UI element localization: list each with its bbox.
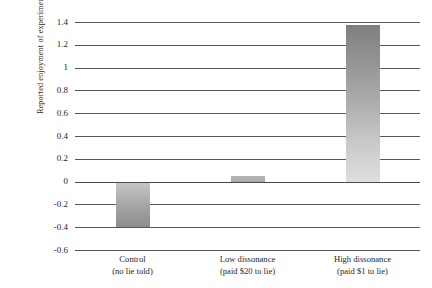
- y-tick-label: 1.2: [57, 38, 68, 51]
- y-tick-label: -0.6: [54, 244, 68, 257]
- y-tick-label: 1.4: [57, 16, 68, 29]
- x-axis-label-line2: (paid $1 to lie): [298, 266, 428, 278]
- x-axis-label-line1: Control: [68, 254, 198, 266]
- y-tick-label: -0.2: [54, 198, 68, 211]
- zero-baseline: [75, 182, 420, 183]
- y-tick-label: 0.2: [57, 152, 68, 165]
- x-axis-label-line2: (paid $20 to lie): [183, 266, 313, 278]
- x-axis-label-line1: Low dissonance: [183, 254, 313, 266]
- x-axis-category-labels: Control(no lie told)Low dissonance(paid …: [75, 254, 420, 288]
- bar-group: [75, 22, 420, 250]
- y-tick-label: 0: [64, 175, 69, 188]
- y-axis-title: Reported enjoyment of experiment: [36, 0, 45, 155]
- y-tick-label: 0.8: [57, 84, 68, 97]
- plot-area: 1.41.210.80.60.40.20-0.2-0.4-0.6: [75, 22, 420, 250]
- gridline: [75, 250, 420, 251]
- x-axis-label-1: Control(no lie told): [68, 254, 198, 277]
- y-tick-label: -0.4: [54, 221, 68, 234]
- bar-1: [116, 182, 150, 228]
- bar-chart: Reported enjoyment of experiment 1.41.21…: [0, 0, 432, 288]
- y-tick-label: 0.4: [57, 130, 68, 143]
- x-axis-label-2: Low dissonance(paid $20 to lie): [183, 254, 313, 277]
- bar-3: [346, 25, 380, 181]
- x-axis-label-line1: High dissonance: [298, 254, 428, 266]
- y-tick-label: 1: [64, 61, 69, 74]
- x-axis-label-line2: (no lie told): [68, 266, 198, 278]
- y-tick-label: 0.6: [57, 107, 68, 120]
- x-axis-label-3: High dissonance(paid $1 to lie): [298, 254, 428, 277]
